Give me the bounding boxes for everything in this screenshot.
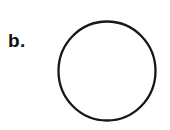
shape-area: [57, 19, 159, 124]
figure-panel: b.: [0, 0, 170, 130]
panel-label: b.: [8, 31, 26, 50]
circle-diagram: [57, 19, 159, 124]
circle-icon: [59, 22, 156, 121]
